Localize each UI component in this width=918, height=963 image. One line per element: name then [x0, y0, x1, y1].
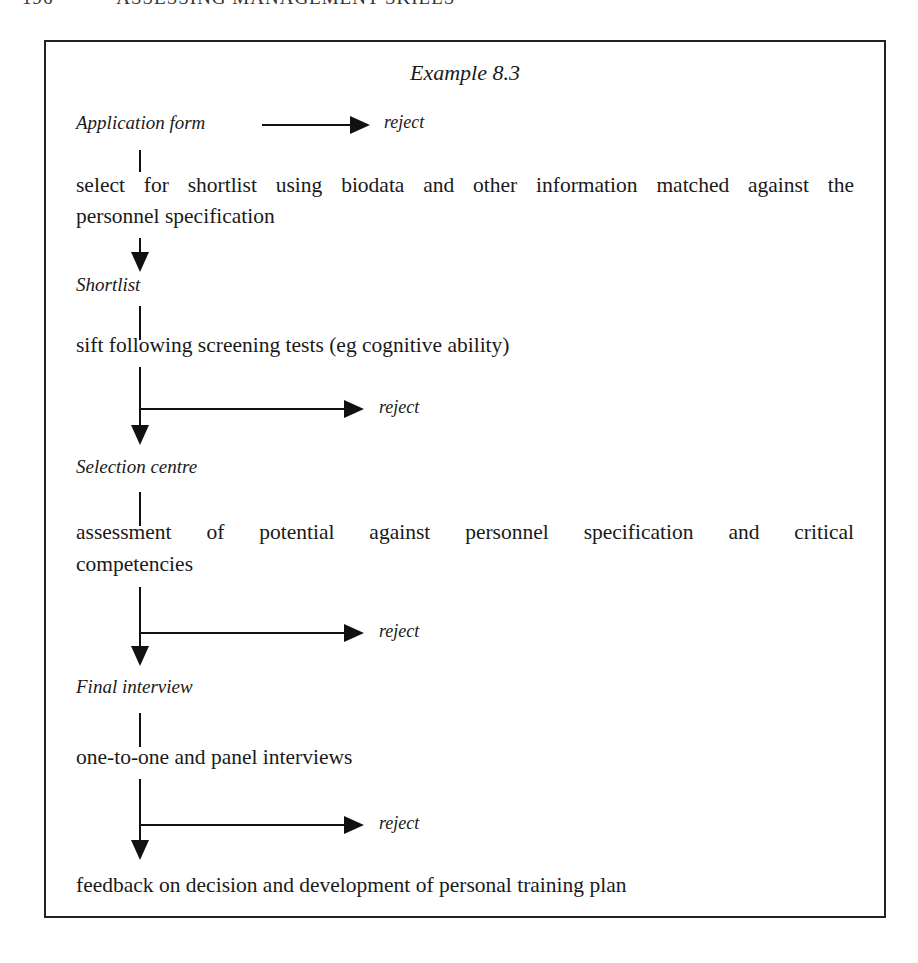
step-select-shortlist-line2: personnel specification — [76, 201, 275, 232]
flow-connector — [139, 367, 141, 429]
stage-selection-centre: Selection centre — [76, 456, 197, 478]
step-sift-screening: sift following screening tests (eg cogni… — [76, 330, 510, 361]
step-feedback: feedback on decision and development of … — [76, 870, 626, 901]
reject-arrow-line — [139, 632, 347, 634]
reject-label: reject — [379, 397, 419, 418]
stage-shortlist: Shortlist — [76, 274, 140, 296]
stage-final-interview: Final interview — [76, 676, 193, 698]
running-title: ASSESSING MANAGEMENT SKILLS — [116, 0, 455, 8]
reject-arrow-line — [139, 824, 347, 826]
flow-connector — [139, 587, 141, 649]
arrow-right-icon — [344, 624, 364, 642]
arrow-down-icon — [131, 840, 149, 860]
arrow-down-icon — [131, 425, 149, 445]
figure-title: Example 8.3 — [46, 60, 884, 86]
reject-label: reject — [384, 112, 424, 133]
reject-arrow-line — [139, 408, 347, 410]
reject-label: reject — [379, 621, 419, 642]
arrow-right-icon — [344, 400, 364, 418]
arrow-down-icon — [131, 646, 149, 666]
flow-connector — [139, 779, 141, 843]
flow-connector — [139, 150, 141, 172]
step-select-shortlist-line1: select for shortlist using biodata and o… — [76, 170, 854, 201]
stage-application-form: Application form — [76, 112, 205, 134]
reject-label: reject — [379, 813, 419, 834]
step-interviews: one-to-one and panel interviews — [76, 742, 352, 773]
step-assessment-line1: assessment of potential against personne… — [76, 517, 854, 548]
reject-arrow-line — [262, 124, 356, 126]
page-number: 196 — [22, 0, 54, 8]
arrow-right-icon — [344, 816, 364, 834]
arrow-down-icon — [131, 252, 149, 272]
example-figure-box: Example 8.3 Application form reject sele… — [44, 40, 886, 918]
arrow-right-icon — [350, 116, 370, 134]
running-header: 196 ASSESSING MANAGEMENT SKILLS — [22, 0, 455, 9]
step-assessment-line2: competencies — [76, 549, 193, 580]
